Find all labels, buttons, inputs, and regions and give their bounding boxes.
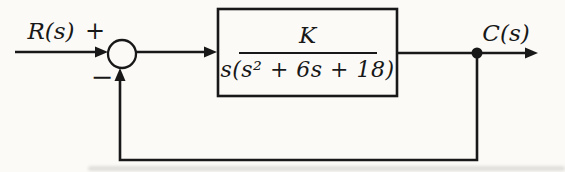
plus-sign: + xyxy=(85,19,105,43)
minus-sign: − xyxy=(91,63,114,90)
output-arrowhead-icon xyxy=(525,48,538,59)
transfer-function: K s(s² + 6s + 18) xyxy=(217,8,398,97)
transfer-function-denominator: s(s² + 6s + 18) xyxy=(220,59,394,81)
scan-artifact xyxy=(88,166,565,171)
block-input-arrowhead-icon xyxy=(204,47,217,58)
feedback-arrowhead-icon xyxy=(115,68,126,81)
output-signal-label: C(s) xyxy=(482,22,529,45)
block-diagram-figure: R(s) + − K s(s² + 6s + 18) C(s) xyxy=(0,0,565,172)
transfer-function-numerator: K xyxy=(299,24,316,47)
fraction-bar xyxy=(239,52,377,54)
input-arrowhead-icon xyxy=(95,47,108,58)
input-signal-label: R(s) xyxy=(27,20,74,43)
